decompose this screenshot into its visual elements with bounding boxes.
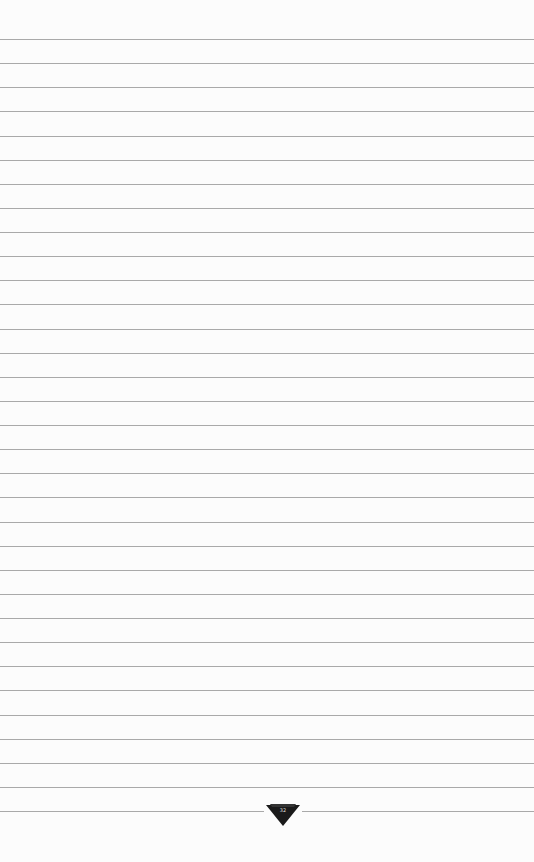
ruled-line <box>302 811 534 812</box>
ruled-line <box>0 497 534 498</box>
ruled-line <box>0 401 534 402</box>
ruled-line <box>0 763 534 764</box>
ruled-line <box>0 304 534 305</box>
lined-paper <box>0 0 534 862</box>
ruled-line <box>0 690 534 691</box>
ruled-line <box>0 377 534 378</box>
ruled-line <box>0 329 534 330</box>
ruled-line <box>0 425 534 426</box>
ruled-line <box>0 111 534 112</box>
ruled-line <box>0 63 534 64</box>
ruled-line <box>0 280 534 281</box>
ruled-line <box>0 39 534 40</box>
ruled-line <box>0 739 534 740</box>
ruled-line <box>0 787 534 788</box>
ruled-line <box>0 570 534 571</box>
ruled-line <box>0 87 534 88</box>
ruled-line <box>0 811 264 812</box>
ruled-line <box>0 642 534 643</box>
ruled-line <box>0 160 534 161</box>
ruled-line <box>0 136 534 137</box>
ruled-line <box>0 618 534 619</box>
ruled-line <box>0 546 534 547</box>
emblem-label: 32 <box>266 807 300 813</box>
ruled-line <box>0 449 534 450</box>
ruled-line <box>0 473 534 474</box>
ruled-line <box>0 522 534 523</box>
ruled-line <box>0 232 534 233</box>
ruled-line <box>0 184 534 185</box>
ruled-line <box>0 594 534 595</box>
ruled-line <box>0 208 534 209</box>
triangle-emblem-icon: 32 <box>266 804 300 826</box>
ruled-line <box>0 353 534 354</box>
ruled-line <box>0 715 534 716</box>
ruled-line <box>0 256 534 257</box>
ruled-line <box>0 666 534 667</box>
